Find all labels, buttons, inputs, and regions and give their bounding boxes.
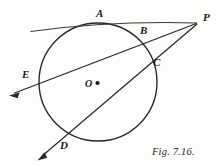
point-label-P: P bbox=[203, 12, 210, 23]
line-AP bbox=[31, 23, 198, 32]
center-label-O: O bbox=[85, 79, 92, 89]
geometry-figure: A B C D E P O Fig. 7.16. bbox=[0, 0, 220, 167]
lines-group bbox=[9, 23, 197, 161]
point-label-B: B bbox=[140, 25, 147, 36]
secant-EP bbox=[14, 23, 197, 93]
figure-canvas bbox=[0, 0, 220, 167]
center-dot-group bbox=[95, 81, 99, 85]
point-label-D: D bbox=[60, 140, 68, 151]
point-label-C: C bbox=[153, 57, 160, 68]
figure-caption: Fig. 7.16. bbox=[152, 146, 195, 157]
point-label-E: E bbox=[22, 69, 29, 80]
center-dot bbox=[95, 81, 99, 85]
point-label-A: A bbox=[96, 8, 103, 19]
